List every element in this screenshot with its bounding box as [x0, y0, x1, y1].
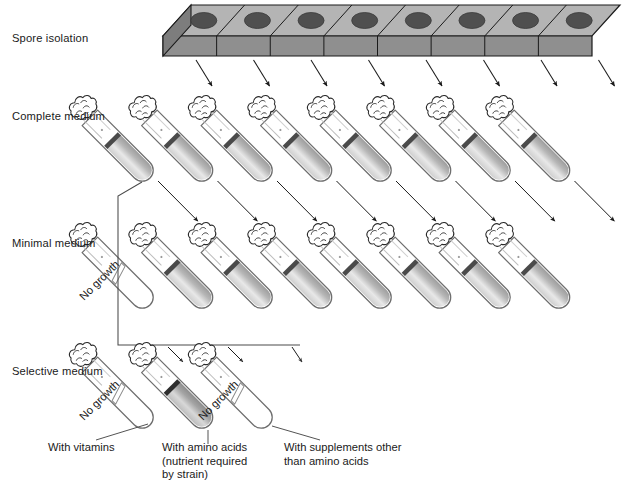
- arrow-tray-to-tube: [484, 60, 500, 86]
- selective-medium-tubes: No growthNo growth: [66, 336, 281, 432]
- arrow-to-selective: [168, 347, 183, 362]
- arrow-complete-to-minimal: [218, 181, 258, 221]
- complete-to-minimal-arrows: [158, 181, 614, 221]
- caption-line: With amino acids: [162, 441, 247, 455]
- arrow-tray-to-tube: [599, 60, 615, 86]
- spore-spot: [298, 13, 324, 29]
- leader-with-supplements: [272, 426, 320, 440]
- caption-with-supplements: With supplements otherthan amino acids: [284, 441, 402, 468]
- caption-with-vitamins: With vitamins: [48, 441, 115, 455]
- caption-with-amino-acids: With amino acids(nutrient requiredby str…: [162, 441, 247, 482]
- caption-line: With supplements other: [284, 441, 402, 455]
- stage-label-selective-medium: Selective medium: [12, 365, 103, 377]
- caption-line: (nutrient required: [162, 455, 247, 469]
- caption-line: by strain): [162, 468, 247, 482]
- leader-with-vitamins: [96, 424, 148, 440]
- minimal-medium-tubes: No growth: [66, 216, 579, 312]
- arrow-tray-to-tube: [196, 60, 212, 86]
- arrow-complete-to-minimal: [158, 181, 198, 221]
- arrow-complete-to-minimal: [575, 181, 615, 221]
- arrow-complete-to-minimal: [396, 181, 436, 221]
- arrow-complete-to-minimal: [277, 181, 317, 221]
- arrow-complete-to-minimal: [456, 181, 496, 221]
- spore-isolation-tray: [163, 5, 620, 56]
- spore-spot: [513, 13, 539, 29]
- selective-medium-bracket: [118, 182, 302, 362]
- arrow-to-selective: [292, 347, 302, 362]
- arrow-tray-to-tube: [311, 60, 327, 86]
- spore-spot: [459, 13, 485, 29]
- spore-spot: [191, 13, 217, 29]
- arrow-tray-to-tube: [254, 60, 270, 86]
- figure-canvas: No growth No growthNo growth Spore isola…: [0, 0, 633, 489]
- complete-medium-tubes: [66, 89, 579, 185]
- spore-spot: [405, 13, 431, 29]
- caption-line: With vitamins: [48, 441, 115, 455]
- arrow-complete-to-minimal: [515, 181, 555, 221]
- arrow-complete-to-minimal: [337, 181, 377, 221]
- arrow-to-selective: [228, 347, 243, 362]
- arrow-tray-to-tube: [369, 60, 385, 86]
- caption-line: than amino acids: [284, 455, 402, 469]
- stage-label-complete-medium: Complete medium: [12, 110, 105, 122]
- stage-label-minimal-medium: Minimal medium: [12, 237, 96, 249]
- spore-spot: [566, 13, 592, 29]
- arrow-tray-to-tube: [541, 60, 557, 86]
- spore-spot: [244, 13, 270, 29]
- tray-to-complete-arrows: [196, 60, 615, 86]
- spore-spot: [352, 13, 378, 29]
- stage-label-spore-isolation: Spore isolation: [12, 32, 88, 44]
- arrow-tray-to-tube: [426, 60, 442, 86]
